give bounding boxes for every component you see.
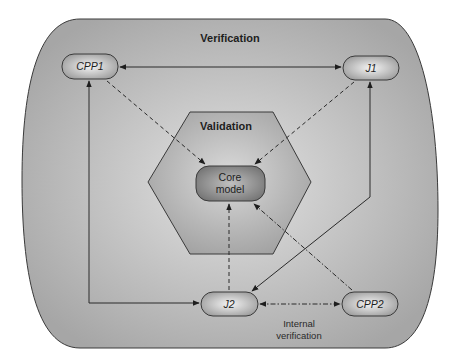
- validation-label: Validation: [200, 120, 252, 132]
- node-cpp1: CPP1: [62, 54, 118, 79]
- node-j2: J2: [201, 292, 258, 316]
- node-cpp2: CPP2: [342, 292, 398, 316]
- node-cpp1-label: CPP1: [76, 60, 103, 72]
- node-core-label-line2: model: [216, 183, 245, 195]
- node-core-model: Core model: [196, 166, 265, 201]
- node-j2-label: J2: [222, 298, 234, 310]
- verification-label: Verification: [200, 32, 260, 44]
- node-j1-label: J1: [364, 62, 376, 74]
- internal-verification-line1: Internal: [283, 318, 315, 329]
- node-core-label-line1: Core: [219, 171, 242, 183]
- internal-verification-line2: verification: [276, 330, 321, 341]
- node-j1: J1: [343, 56, 399, 80]
- verification-validation-diagram: Verification Validation CPP1 J1 Core mod…: [0, 0, 458, 364]
- node-cpp2-label: CPP2: [356, 298, 384, 310]
